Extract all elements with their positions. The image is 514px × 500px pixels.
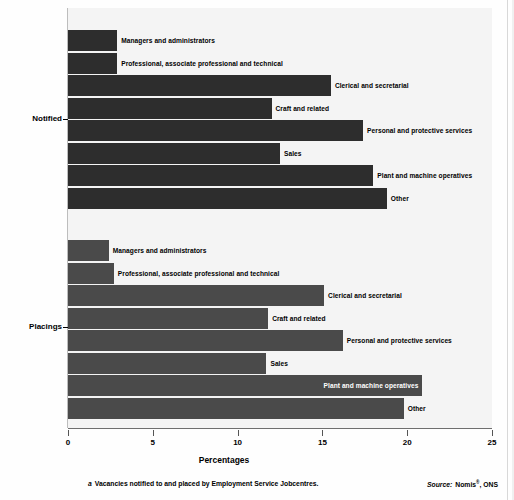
bar-value-label: Managers and administrators [121,30,215,51]
x-axis-tick [407,430,408,436]
bar[interactable] [68,30,117,51]
x-axis-tick-label: 0 [66,438,70,447]
bar-value-label: Sales [284,143,302,164]
bar-row: Clerical and secretarial [68,285,492,306]
bar[interactable] [68,308,268,329]
bar-value-label: Plant and machine operatives [377,165,472,186]
bar[interactable] [68,143,280,164]
bar-value-label: Plant and machine operatives [324,375,419,396]
source-note: Source:Nomis®, ONS [427,480,498,488]
x-axis-tick [322,430,323,436]
bar[interactable] [68,285,324,306]
bar-value-label: Professional, associate professional and… [118,263,280,284]
y-axis-tick-placings [63,327,68,328]
bar[interactable] [68,188,387,209]
bar-value-label: Clerical and secretarial [335,75,409,96]
bar-row: Other [68,398,492,419]
bar-row: Sales [68,353,492,374]
bar-value-label: Clerical and secretarial [328,285,402,306]
bar[interactable] [68,330,343,351]
bar-group-placings: Managers and administratorsProfessional,… [68,240,492,422]
x-axis-title-text: Percentages [199,455,250,465]
x-axis-tick [492,430,493,436]
bar-row: Craft and related [68,308,492,329]
bar[interactable] [68,398,404,419]
bar-row: Clerical and secretarial [68,75,492,96]
y-axis-line [67,8,68,428]
source-suffix: , ONS [479,481,498,488]
bar-value-label: Personal and protective services [367,120,472,141]
bar[interactable] [68,98,272,119]
x-axis-tick [153,430,154,436]
bar-value-label: Craft and related [276,98,330,119]
y-axis-label-placings: Placings [0,322,62,331]
bar[interactable] [68,75,331,96]
bar[interactable] [68,120,363,141]
bar-row: Professional, associate professional and… [68,263,492,284]
source-lead: Source: [427,481,452,488]
bar-value-label: Other [391,188,409,209]
bar-value-label: Managers and administrators [113,240,207,261]
bar-row: Personal and protective services [68,330,492,351]
bar[interactable] [68,353,266,374]
footnote: aVacancies notified to and placed by Emp… [88,480,318,487]
bar-row: Craft and related [68,98,492,119]
bar-value-label: Other [408,398,426,419]
bar[interactable] [68,53,117,74]
bar-row: Plant and machine operatives [68,165,492,186]
x-axis-tick-label: 15 [318,438,327,447]
footnote-marker: a [88,480,92,487]
plot-area: Managers and administratorsProfessional,… [68,8,492,428]
bar-group-notified: Managers and administratorsProfessional,… [68,30,492,210]
x-axis-title: Percentages [0,455,514,465]
x-axis-line [68,428,492,429]
bar-value-label: Sales [270,353,288,374]
bar-row: Plant and machine operatives [68,375,492,396]
y-axis-tick-notified [63,119,68,120]
bar-value-label: Craft and related [272,308,326,329]
x-axis-tick-label: 10 [233,438,242,447]
footnote-text: Vacancies notified to and placed by Empl… [95,480,319,487]
bar-value-label: Personal and protective services [347,330,452,351]
bar-row: Managers and administrators [68,240,492,261]
x-axis-tick-label: 5 [151,438,155,447]
x-axis-tick-label: 25 [488,438,497,447]
x-axis-tick [238,430,239,436]
y-axis-label-notified: Notified [0,114,62,123]
bar-row: Other [68,188,492,209]
bar-row: Personal and protective services [68,120,492,141]
source-name: Nomis [455,481,476,488]
x-axis-tick-label: 20 [403,438,412,447]
bar-row: Sales [68,143,492,164]
bar-value-label: Professional, associate professional and… [121,53,283,74]
bar[interactable] [68,263,114,284]
bar[interactable] [68,240,109,261]
page-edge-rule [507,0,508,500]
x-axis-tick [68,430,69,436]
bar[interactable] [68,165,373,186]
bar-row: Managers and administrators [68,30,492,51]
bar-row: Professional, associate professional and… [68,53,492,74]
chart-page: Managers and administratorsProfessional,… [0,0,514,500]
